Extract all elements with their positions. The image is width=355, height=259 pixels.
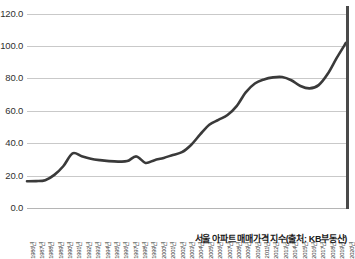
x-tick-label: 1996년 bbox=[123, 241, 129, 259]
x-tick-label: 1992년 bbox=[86, 241, 92, 259]
x-tick-label: 1989년 bbox=[58, 241, 64, 259]
x-tick-label: 1991년 bbox=[76, 241, 82, 259]
plot-area bbox=[27, 0, 349, 209]
x-tick-label: 1999년 bbox=[151, 241, 157, 259]
x-tick-label: 1990년 bbox=[67, 241, 73, 259]
series-line bbox=[27, 0, 349, 209]
y-tick-label: 40.0 bbox=[5, 138, 23, 148]
x-tick-label: 1987년 bbox=[39, 241, 45, 259]
x-tick-label: 2001년 bbox=[170, 241, 176, 259]
x-tick-label: 1988년 bbox=[48, 241, 54, 259]
x-tick-label: 1993년 bbox=[95, 241, 101, 259]
y-tick-label: 120.0 bbox=[0, 9, 23, 19]
y-tick-label: 0.0 bbox=[10, 203, 23, 213]
x-tick-label: 2000년 bbox=[161, 241, 167, 259]
x-tick-label: 1997년 bbox=[133, 241, 139, 259]
x-tick-label: 1998년 bbox=[142, 241, 148, 259]
plot-right-border bbox=[346, 6, 349, 209]
x-tick-label: 2020년 bbox=[349, 241, 355, 259]
y-tick-label: 20.0 bbox=[5, 171, 23, 181]
x-tick-label: 1994년 bbox=[105, 241, 111, 259]
chart-caption: 서울 아파트 매매가격 지수(출처: KB부동산) bbox=[195, 232, 348, 245]
x-tick-label: 2002년 bbox=[180, 241, 186, 259]
y-tick-label: 60.0 bbox=[5, 106, 23, 116]
series-path bbox=[27, 43, 346, 182]
x-tick-label: 1986년 bbox=[30, 241, 36, 259]
y-tick-label: 100.0 bbox=[0, 41, 23, 51]
y-axis: 120.0 100.0 80.0 60.0 40.0 20.0 0.0 bbox=[0, 0, 26, 215]
y-tick-label: 80.0 bbox=[5, 73, 23, 83]
x-tick-label: 1995년 bbox=[114, 241, 120, 259]
